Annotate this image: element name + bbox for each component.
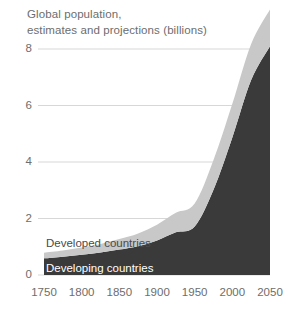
y-tick-label: 4: [26, 155, 33, 167]
series-label-developing: Developing countries: [46, 262, 154, 274]
y-tick-label: 8: [26, 42, 32, 54]
chart-figure: Global population, estimates and project…: [0, 0, 292, 312]
series-label-developed: Developed countries: [46, 237, 151, 249]
y-tick-label: 2: [26, 212, 32, 224]
x-tick-label: 1750: [31, 286, 57, 298]
chart-plot-area: 02468 1750180018501900195020002050 Devel…: [0, 0, 292, 312]
y-axis-tick-labels: 02468: [26, 42, 33, 280]
y-tick-label: 0: [26, 268, 32, 280]
x-tick-label: 2050: [257, 286, 283, 298]
x-tick-label: 1800: [69, 286, 95, 298]
y-tick-label: 6: [26, 99, 32, 111]
x-axis-tick-labels: 1750180018501900195020002050: [31, 286, 283, 298]
x-tick-label: 1950: [182, 286, 208, 298]
x-tick-label: 2000: [220, 286, 246, 298]
x-tick-label: 1850: [107, 286, 133, 298]
x-tick-label: 1900: [144, 286, 170, 298]
